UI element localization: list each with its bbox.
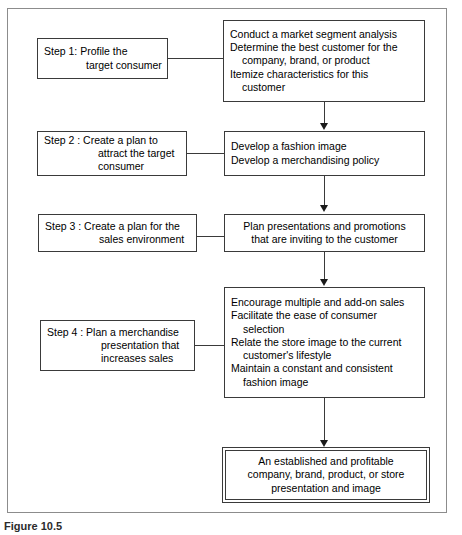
- outcome-line-2: company, brand, product, or store: [232, 468, 420, 481]
- outcome-line-1: An established and profitable: [232, 455, 420, 468]
- arrow-line-3: [324, 252, 325, 280]
- figure-page: Step 1: Profile the target consumer Cond…: [0, 0, 462, 535]
- detail-box-3: Plan presentations and promotions that a…: [224, 214, 425, 252]
- step-2-line-2: attract the target: [44, 147, 180, 160]
- step-box-1: Step 1: Profile the target consumer: [37, 38, 168, 79]
- arrow-head-1: [320, 123, 328, 130]
- arrow-head-2: [320, 205, 328, 212]
- detail-3-line-2: that are inviting to the customer: [231, 233, 418, 246]
- detail-4-line-6: Maintain a constant and consistent: [231, 362, 418, 375]
- connector-step-2-to-detail-2: [187, 153, 224, 154]
- detail-2-line-1: Develop a fashion image: [231, 140, 418, 153]
- step-box-4: Step 4 : Plan a merchandise presentation…: [40, 320, 195, 371]
- step-4-line-3: increases sales: [47, 352, 188, 365]
- detail-1-line-3: company, brand, or product: [230, 54, 418, 67]
- detail-1-line-4: Itemize characteristics for this: [230, 68, 418, 81]
- detail-4-line-3: selection: [231, 323, 418, 336]
- step-2-line-1: Step 2 : Create a plan to: [44, 134, 180, 147]
- step-3-line-2: sales environment: [45, 233, 190, 246]
- connector-step-1-to-detail-1: [168, 58, 223, 59]
- detail-box-2: Develop a fashion image Develop a mercha…: [224, 131, 425, 176]
- arrow-line-2: [324, 176, 325, 207]
- detail-2-line-2: Develop a merchandising policy: [231, 154, 418, 167]
- outcome-line-3: presentation and image: [232, 482, 420, 495]
- step-4-line-1: Step 4 : Plan a merchandise: [47, 326, 188, 339]
- detail-4-line-2: Facilitate the ease of consumer: [231, 309, 418, 322]
- arrow-line-1: [324, 102, 325, 125]
- step-3-line-1: Step 3 : Create a plan for the: [45, 220, 190, 233]
- detail-1-line-5: customer: [230, 81, 418, 94]
- detail-4-line-1: Encourage multiple and add-on sales: [231, 296, 418, 309]
- detail-box-1: Conduct a market segment analysis Determ…: [223, 20, 425, 102]
- outcome-box: An established and profitable company, b…: [222, 447, 430, 503]
- arrow-head-4: [320, 440, 328, 447]
- step-box-3: Step 3 : Create a plan for the sales env…: [38, 214, 197, 252]
- detail-4-line-5: customer's lifestyle: [231, 349, 418, 362]
- detail-4-line-4: Relate the store image to the current: [231, 336, 418, 349]
- connector-step-4-to-detail-4: [195, 345, 224, 346]
- detail-3-line-1: Plan presentations and promotions: [231, 220, 418, 233]
- detail-box-4: Encourage multiple and add-on sales Faci…: [224, 287, 425, 398]
- connector-step-3-to-detail-3: [197, 236, 224, 237]
- arrow-head-3: [320, 279, 328, 286]
- step-1-line-1: Step 1: Profile the: [44, 45, 161, 58]
- step-2-line-3: consumer: [44, 160, 180, 173]
- detail-1-line-2: Determine the best customer for the: [230, 41, 418, 54]
- step-box-2: Step 2 : Create a plan to attract the ta…: [37, 131, 187, 176]
- arrow-line-4: [324, 398, 325, 442]
- detail-4-line-7: fashion image: [231, 376, 418, 389]
- figure-caption: Figure 10.5: [4, 520, 62, 532]
- step-1-line-2: target consumer: [44, 59, 161, 72]
- detail-1-line-1: Conduct a market segment analysis: [230, 28, 418, 41]
- step-4-line-2: presentation that: [47, 339, 188, 352]
